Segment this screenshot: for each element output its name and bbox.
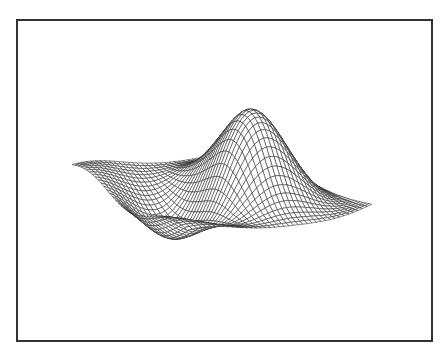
wireframe-mesh [72, 109, 372, 239]
surface-plot [0, 0, 445, 356]
